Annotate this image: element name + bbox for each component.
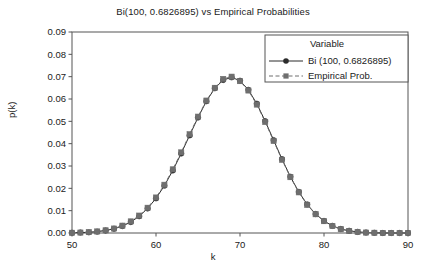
x-tick-label: 80 (319, 239, 330, 250)
data-point-marker (405, 230, 410, 235)
data-point-marker (372, 230, 377, 235)
data-point-marker (254, 102, 259, 107)
data-point-marker (145, 205, 150, 210)
data-point-marker (153, 195, 158, 200)
x-tick-label: 70 (235, 239, 246, 250)
data-point-marker (170, 167, 175, 172)
data-point-marker (69, 230, 74, 235)
data-point-marker (212, 85, 217, 90)
data-point-marker (271, 138, 276, 143)
y-tick-label: 0.08 (48, 49, 67, 60)
legend-title: Variable (310, 38, 344, 49)
chart-legend[interactable]: VariableBi (100, 0.6826895)Empirical Pro… (265, 35, 408, 82)
legend-marker-swatch (283, 58, 289, 64)
data-point-marker (128, 219, 133, 224)
series-line-2 (72, 77, 408, 233)
data-point-marker (313, 212, 318, 217)
legend-entry-label: Empirical Prob. (308, 70, 372, 81)
data-series (69, 74, 410, 236)
data-point-marker (288, 175, 293, 180)
data-point-marker (397, 230, 402, 235)
series-line-1 (72, 77, 408, 233)
data-point-marker (321, 219, 326, 224)
data-point-marker (330, 223, 335, 228)
y-tick-label: 0.05 (48, 116, 67, 127)
data-point-marker (363, 230, 368, 235)
x-tick-label: 60 (151, 239, 162, 250)
data-point-marker (195, 114, 200, 119)
data-point-marker (120, 223, 125, 228)
x-tick-label: 50 (67, 239, 78, 250)
y-tick-label: 0.04 (48, 138, 67, 149)
y-tick-label: 0.03 (48, 160, 67, 171)
legend-entry-label: Bi (100, 0.6826895) (308, 55, 391, 66)
data-point-marker (229, 74, 234, 79)
data-point-marker (338, 227, 343, 232)
data-point-marker (162, 182, 167, 187)
y-tick-label: 0.06 (48, 93, 67, 104)
plot-canvas: 0.000.010.020.030.040.050.060.070.080.09… (0, 0, 426, 270)
data-point-marker (103, 228, 108, 233)
data-point-marker (237, 79, 242, 84)
data-point-marker (380, 230, 385, 235)
data-point-marker (137, 213, 142, 218)
y-tick-label: 0.00 (48, 227, 67, 238)
data-point-marker (179, 150, 184, 155)
data-point-marker (305, 202, 310, 207)
data-point-marker (86, 230, 91, 235)
y-tick-label: 0.01 (48, 205, 67, 216)
chart-figure: Bi(100, 0.6826895) vs Empirical Probabil… (0, 0, 426, 270)
data-point-marker (263, 119, 268, 124)
data-point-marker (95, 229, 100, 234)
data-point-marker (355, 229, 360, 234)
data-point-marker (187, 132, 192, 137)
data-point-marker (111, 226, 116, 231)
data-point-marker (246, 88, 251, 93)
data-point-marker (204, 98, 209, 103)
data-point-marker (279, 157, 284, 162)
data-point-marker (296, 190, 301, 195)
y-tick-label: 0.09 (48, 26, 67, 37)
data-point-marker (389, 230, 394, 235)
data-point-marker (347, 228, 352, 233)
legend-marker-swatch (283, 73, 288, 78)
data-point-marker (221, 76, 226, 81)
y-tick-label: 0.07 (48, 71, 67, 82)
data-point-marker (78, 230, 83, 235)
y-tick-label: 0.02 (48, 183, 67, 194)
x-tick-label: 90 (403, 239, 414, 250)
